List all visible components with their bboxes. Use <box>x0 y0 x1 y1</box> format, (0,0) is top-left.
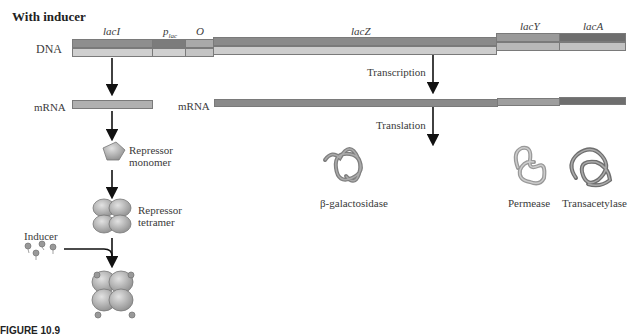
diagram-graphics <box>0 0 639 335</box>
inducer-bound-tetramer-icon <box>92 271 135 318</box>
repressor-monomer-icon <box>103 142 125 160</box>
inducer-molecules-icon <box>25 241 56 260</box>
repressor-tetramer-icon <box>93 199 131 233</box>
